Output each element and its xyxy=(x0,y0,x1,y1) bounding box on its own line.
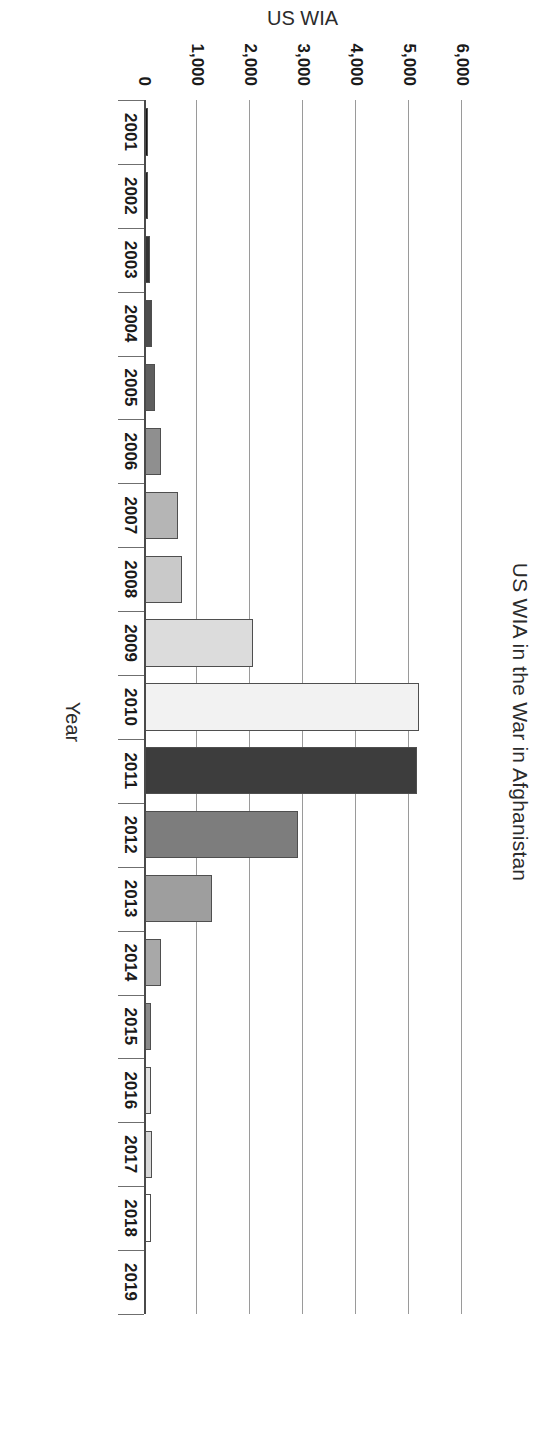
bar-slot xyxy=(144,739,462,803)
bar-slot xyxy=(144,483,462,547)
chart-title: US WIA in the War in Afghanistan xyxy=(508,0,532,1444)
bar-slot xyxy=(144,931,462,995)
x-tick-label: 2011 xyxy=(106,739,140,803)
x-tick-label: 2016 xyxy=(106,1058,140,1122)
x-axis-tick-labels: 2001200220032004200520062007200820092010… xyxy=(106,100,140,1314)
x-tick-label: 2013 xyxy=(106,867,140,931)
x-tick-label: 2017 xyxy=(106,1122,140,1186)
bar[interactable] xyxy=(144,939,161,986)
plot-area xyxy=(144,100,462,1314)
x-tick-label: 2003 xyxy=(106,228,140,292)
bar-slot xyxy=(144,1250,462,1314)
bar[interactable] xyxy=(144,428,161,475)
x-tick-label: 2002 xyxy=(106,164,140,228)
bar-slot xyxy=(144,1058,462,1122)
bar[interactable] xyxy=(144,683,419,730)
x-tick-label: 2008 xyxy=(106,547,140,611)
y-tick-label: 1,000 xyxy=(187,43,207,86)
x-tick-label: 2018 xyxy=(106,1186,140,1250)
x-axis-title: Year xyxy=(61,0,84,1444)
x-tick-label: 2015 xyxy=(106,994,140,1058)
bar-slot xyxy=(144,164,462,228)
x-axis-baseline xyxy=(144,100,146,1314)
y-tick-label: 0 xyxy=(134,77,154,86)
y-tick-label: 2,000 xyxy=(240,43,260,86)
x-tick-label: 2012 xyxy=(106,803,140,867)
y-tick-label: 3,000 xyxy=(293,43,313,86)
x-tick-label: 2010 xyxy=(106,675,140,739)
bar-slot xyxy=(144,100,462,164)
y-tick-label: 4,000 xyxy=(346,43,366,86)
bar[interactable] xyxy=(144,619,253,666)
bar-slot xyxy=(144,611,462,675)
x-tick-label: 2004 xyxy=(106,292,140,356)
bar-slot xyxy=(144,1122,462,1186)
x-tick-label: 2007 xyxy=(106,483,140,547)
figure-rotator: US WIA in the War in Afghanistan US WIA … xyxy=(0,0,554,1444)
x-tick-label: 2019 xyxy=(106,1250,140,1314)
bar-slot xyxy=(144,547,462,611)
y-tick-label: 6,000 xyxy=(452,43,472,86)
bar-slot xyxy=(144,419,462,483)
bar[interactable] xyxy=(144,811,298,858)
bar[interactable] xyxy=(144,747,417,794)
bar[interactable] xyxy=(144,492,178,539)
bar-slot xyxy=(144,292,462,356)
x-tick-label: 2001 xyxy=(106,100,140,164)
bar-slot xyxy=(144,356,462,420)
x-tick-label: 2005 xyxy=(106,356,140,420)
bar-slot xyxy=(144,675,462,739)
bar-slot xyxy=(144,228,462,292)
x-tick-label: 2006 xyxy=(106,419,140,483)
bar-slot xyxy=(144,803,462,867)
x-tick-label: 2014 xyxy=(106,931,140,995)
bar[interactable] xyxy=(144,556,182,603)
bar-slot xyxy=(144,1186,462,1250)
bar-series xyxy=(144,100,462,1314)
y-tick-label: 5,000 xyxy=(399,43,419,86)
bar-chart-figure: US WIA in the War in Afghanistan US WIA … xyxy=(0,0,554,1444)
bar[interactable] xyxy=(144,875,212,922)
x-tick-label: 2009 xyxy=(106,611,140,675)
bar-slot xyxy=(144,867,462,931)
y-axis-tick-labels: 01,0002,0003,0004,0005,0006,000 xyxy=(144,0,462,96)
category-separator xyxy=(118,1314,144,1315)
bar-slot xyxy=(144,994,462,1058)
